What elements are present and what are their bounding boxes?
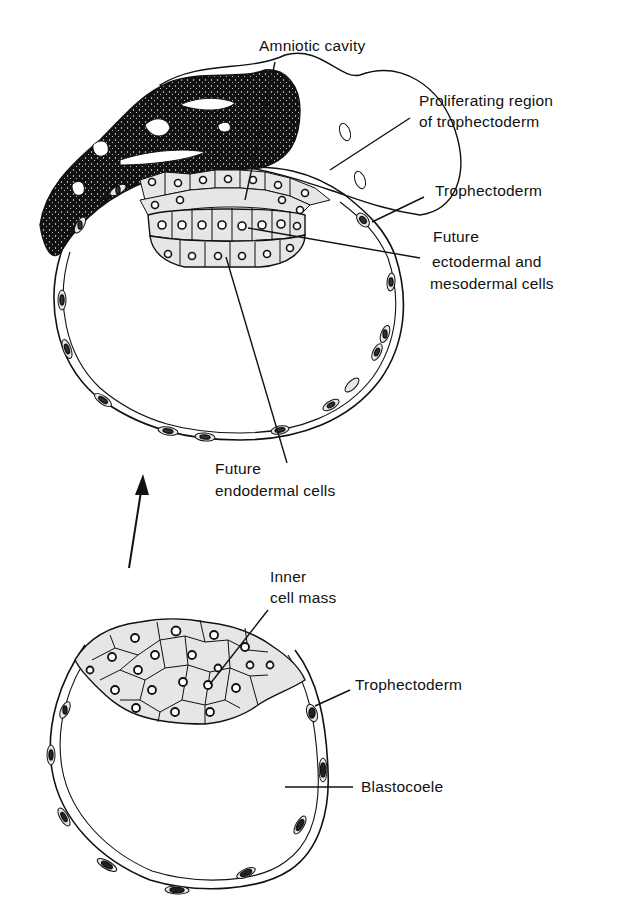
label-proliferating-region-2: of trophectoderm <box>419 111 539 132</box>
leader-trophectoderm-bottom <box>315 690 350 706</box>
label-inner-cell-mass-1: Inner <box>270 566 306 587</box>
label-proliferating-region-1: Proliferating region <box>419 90 553 111</box>
label-future-ecto-3: mesodermal cells <box>430 273 554 294</box>
label-future-ecto-1: Future <box>433 226 479 247</box>
development-arrow <box>129 474 149 568</box>
label-trophectoderm-top: Trophectoderm <box>435 180 542 201</box>
label-inner-cell-mass-2: cell mass <box>270 587 336 608</box>
label-amniotic-cavity: Amniotic cavity <box>259 35 365 56</box>
label-future-ecto-2: ectodermal and <box>432 251 542 272</box>
implanting-blastocyst <box>40 53 461 463</box>
label-future-endo-1: Future <box>215 458 261 479</box>
embryo-diagram <box>0 0 628 924</box>
label-trophectoderm-bottom: Trophectoderm <box>355 674 462 695</box>
label-future-endo-2: endodermal cells <box>215 480 335 501</box>
arrow-up-icon <box>135 474 149 495</box>
label-blastocoele: Blastocoele <box>361 776 443 797</box>
blastocyst <box>47 610 353 894</box>
inner-cell-mass <box>75 619 305 724</box>
